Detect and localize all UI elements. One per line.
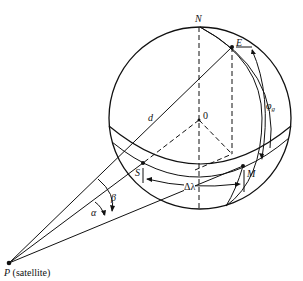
arrowhead-beta bbox=[110, 205, 115, 212]
arrowhead-alpha bbox=[101, 210, 106, 216]
label-north: N bbox=[195, 14, 202, 24]
line-p-s bbox=[9, 163, 143, 263]
arrowhead-phi-top bbox=[251, 49, 256, 54]
label-delta-lambda: Δλ bbox=[184, 182, 195, 192]
label-distance: d bbox=[148, 113, 153, 123]
point-e bbox=[230, 45, 234, 49]
o-to-m bbox=[199, 120, 232, 154]
label-center: 0 bbox=[203, 111, 208, 121]
label-alpha: α bbox=[91, 208, 96, 218]
o-to-s bbox=[143, 120, 199, 163]
point-o bbox=[198, 119, 201, 122]
label-beta: β bbox=[111, 193, 116, 203]
label-latitude: φg bbox=[266, 101, 275, 111]
arrowhead-delta-m bbox=[235, 182, 241, 187]
point-s bbox=[141, 161, 145, 165]
arrowhead-delta-s bbox=[146, 177, 152, 182]
label-earth-station: E bbox=[236, 38, 242, 48]
label-satellite: P (satellite) bbox=[4, 268, 50, 278]
earth-sphere bbox=[109, 27, 291, 209]
line-p-m bbox=[9, 166, 243, 263]
label-subsatellite: S bbox=[135, 168, 140, 178]
label-equator-point: M bbox=[247, 169, 255, 179]
chord-dashed bbox=[195, 154, 232, 170]
point-m bbox=[241, 164, 245, 168]
satellite-geometry-diagram bbox=[0, 0, 303, 281]
point-p bbox=[7, 261, 12, 266]
phi-arc bbox=[252, 50, 265, 158]
